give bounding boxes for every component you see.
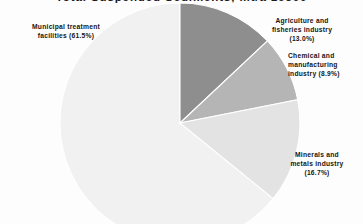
slice-label-line: Agriculture and <box>248 16 356 25</box>
slice-label-line: industry (8.9%) <box>288 69 362 78</box>
slice-label-line: (16.7%) <box>272 168 362 177</box>
slice-label-chemical-manufacturing: Chemical and manufacturing industry (8.9… <box>288 51 362 79</box>
slice-label-line: fisheries industry <box>248 25 356 34</box>
slice-label-line: manufacturing <box>288 60 362 69</box>
slice-label-line: facilities (61.5%) <box>8 31 124 40</box>
slice-label-agriculture-fisheries: Agriculture and fisheries industry (13.0… <box>248 16 356 44</box>
slice-label-line: Minerals and <box>272 150 362 159</box>
slice-label-municipal-treatment: Municipal treatment facilities (61.5%) <box>8 22 124 40</box>
slice-label-minerals-metals: Minerals and metals industry (16.7%) <box>272 150 362 178</box>
slice-label-line: (13.0%) <box>248 34 356 43</box>
slice-label-line: Municipal treatment <box>8 22 124 31</box>
slice-label-line: Chemical and <box>288 51 362 60</box>
slice-label-line: metals industry <box>272 159 362 168</box>
pie-chart-figure: Total Suspended Sediments, mt/a 19500 Mu… <box>0 0 363 224</box>
